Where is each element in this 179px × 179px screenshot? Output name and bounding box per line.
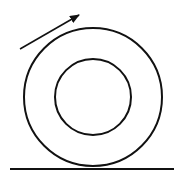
rolling-ring-diagram <box>0 0 179 179</box>
inner-circle <box>55 59 131 135</box>
outer-circle <box>24 28 162 166</box>
